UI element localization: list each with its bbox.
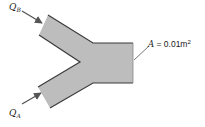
outlet-leader-line [134, 46, 149, 60]
inlet-a-arrow-icon [22, 93, 41, 104]
inlet-b-arrow-icon [22, 11, 42, 23]
pipe-body [38, 15, 133, 108]
outlet-area-label: A = 0.01m2 [147, 39, 191, 49]
inlet-b-label: QB [9, 2, 21, 13]
y-junction-diagram: QB QA A = 0.01m2 [0, 0, 205, 127]
inlet-a-label: QA [9, 108, 21, 119]
